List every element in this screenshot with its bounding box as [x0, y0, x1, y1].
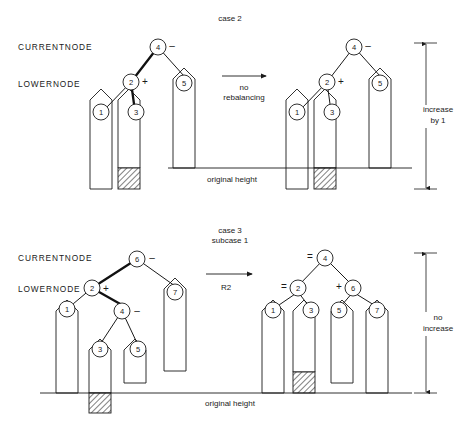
node-label-4: 4 [156, 43, 160, 52]
case2-transform-arrow: no rebalancing [222, 76, 266, 102]
subtree-house-3-after [314, 89, 336, 168]
case2-measure-bracket: increase by 1 [414, 43, 454, 189]
node-sign-2: + [142, 76, 148, 87]
node-label-7: 7 [173, 288, 177, 297]
case3-subtitle: subcase 1 [212, 236, 249, 245]
node-label-6-after: 6 [351, 284, 355, 293]
node-sign-2-after: = [281, 281, 287, 292]
node-label-4-after: 4 [323, 254, 327, 263]
case3-measure-label-2: increase [423, 324, 454, 333]
node-label-5: 5 [136, 345, 140, 354]
node-label-2-after: 2 [325, 78, 329, 87]
node-sign-4-after: = [307, 251, 313, 262]
case3-after-tree: 4 = 2 = 6 + 1 3 5 7 [262, 250, 388, 393]
node-sign-4: – [169, 40, 175, 51]
case3-arrow-label: R2 [221, 283, 232, 292]
case2-measure-label-2: by 1 [430, 116, 446, 125]
node-label-2-after: 2 [296, 284, 300, 293]
case2-currentnode-label: CURRENTNODE [18, 42, 92, 52]
node-label-1-after: 1 [271, 306, 275, 315]
case3-before-tree: 6 – 2 + 4 – 7 1 3 5 [56, 251, 186, 413]
case3-title: case 3 [218, 226, 242, 235]
node-sign-2: + [103, 283, 109, 294]
subtree-house-3 [118, 89, 140, 168]
node-sign-2-after: + [338, 76, 344, 87]
node-label-7-after: 7 [375, 306, 379, 315]
node-sign-6: – [149, 252, 155, 263]
node-label-3-after: 3 [330, 108, 334, 117]
node-label-1: 1 [65, 305, 69, 314]
node-label-3-after: 3 [309, 306, 313, 315]
case2-arrow-label-2: rebalancing [223, 93, 264, 102]
case2-arrow-label-1: no [240, 83, 249, 92]
case2-original-height-label: original height [207, 175, 258, 184]
node-label-1-after: 1 [295, 108, 299, 117]
node-label-3: 3 [98, 345, 102, 354]
node-label-3: 3 [134, 108, 138, 117]
avl-rotation-figure: case 2 CURRENTNODE LOWERNODE 4 – 2 + [0, 0, 460, 430]
case2-after-tree: 4 – 2 + 5 1 3 [286, 39, 391, 189]
case3-lowernode-label: LOWERNODE [18, 284, 81, 294]
node-label-5: 5 [182, 79, 186, 88]
case2-lowernode-label: LOWERNODE [18, 79, 81, 89]
case2-measure-label-1: increase [423, 105, 454, 114]
node-label-6: 6 [135, 255, 139, 264]
height-increment-hatch-after [314, 168, 336, 189]
case3-measure-bracket: no increase [414, 253, 454, 393]
case2-before-tree: 4 – 2 + 5 1 3 [90, 39, 195, 189]
height-increment-hatch [118, 168, 140, 189]
figure-page: case 2 CURRENTNODE LOWERNODE 4 – 2 + [0, 0, 460, 430]
node-label-4: 4 [120, 307, 124, 316]
height-increment-hatch-after [293, 372, 315, 393]
case3-currentnode-label: CURRENTNODE [18, 253, 92, 263]
node-sign-4-after: – [365, 40, 371, 51]
case2-title: case 2 [218, 14, 242, 23]
height-increment-hatch [89, 393, 111, 413]
node-sign-6-after: + [336, 281, 342, 292]
node-label-2: 2 [129, 78, 133, 87]
case3-measure-label-1: no [434, 313, 443, 322]
case3-transform-arrow: R2 [206, 274, 252, 292]
node-label-5-after: 5 [378, 79, 382, 88]
panel-case-2: case 2 CURRENTNODE LOWERNODE 4 – 2 + [18, 14, 454, 189]
node-label-4-after: 4 [352, 43, 356, 52]
panel-case-3-subcase-1: case 3 subcase 1 CURRENTNODE LOWERNODE [18, 226, 454, 413]
node-label-2: 2 [90, 284, 94, 293]
case3-original-height-label: original height [205, 399, 256, 408]
node-sign-4: – [134, 305, 140, 316]
node-label-1: 1 [99, 108, 103, 117]
node-label-5-after: 5 [337, 306, 341, 315]
